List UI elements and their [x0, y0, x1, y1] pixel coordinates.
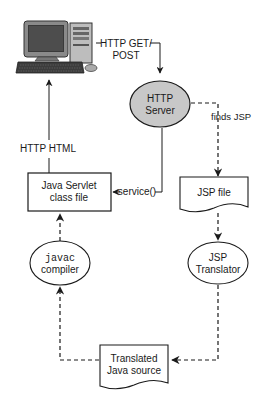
edge-finds-jsp: finds JSP	[191, 103, 251, 176]
javac-line2: compiler	[41, 264, 79, 275]
request-label-line1: HTTP GET/	[100, 38, 152, 49]
edge-request: HTTP GET/ POST	[96, 38, 160, 73]
edge-response: HTTP HTML	[20, 80, 76, 173]
javac-line1: javac	[45, 253, 75, 264]
computer-icon	[16, 21, 97, 73]
edge-translator-to-source	[172, 285, 218, 360]
diagram-canvas: HTTP GET/ POST HTTP Server finds JSP ser…	[0, 0, 263, 408]
service-label: service()	[118, 186, 156, 197]
request-label-line2: POST	[112, 50, 139, 61]
http-server-line2: Server	[145, 105, 175, 116]
finds-jsp-label: finds JSP	[211, 111, 251, 122]
translated-source-node: Translated Java source	[100, 345, 168, 389]
servlet-class-node: Java Servlet class file	[28, 173, 111, 211]
http-server-node: HTTP Server	[130, 81, 190, 127]
servlet-class-line1: Java Servlet	[41, 180, 96, 191]
response-label: HTTP HTML	[20, 143, 76, 154]
jsp-translator-line1: JSP	[209, 252, 228, 263]
translated-source-line1: Translated	[111, 353, 158, 364]
jsp-file-label: JSP file	[197, 187, 231, 198]
translated-source-line2: Java source	[107, 365, 161, 376]
jsp-translator-line2: Translator	[196, 264, 241, 275]
edge-source-to-javac	[60, 287, 99, 360]
servlet-class-line2: class file	[50, 192, 89, 203]
jsp-file-node: JSP file	[180, 177, 248, 212]
javac-compiler-node: javac compiler	[30, 241, 90, 285]
jsp-translator-node: JSP Translator	[188, 242, 248, 284]
http-server-line1: HTTP	[147, 93, 173, 104]
edge-service: service()	[113, 128, 162, 197]
